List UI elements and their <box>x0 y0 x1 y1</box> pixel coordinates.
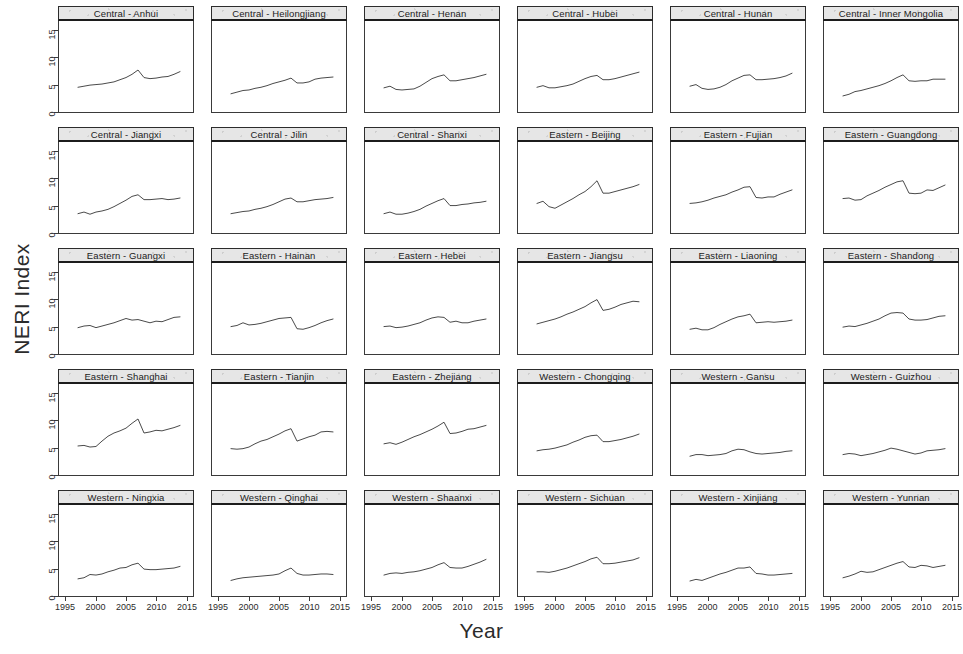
x-tick-mark <box>585 597 586 601</box>
panel-strip-header: Western - Sichuan <box>517 490 653 505</box>
panel-title: Eastern - Guangdong <box>824 128 958 141</box>
y-tick-label: 10 <box>48 299 57 309</box>
plot-area <box>823 142 959 234</box>
panel-strip-header: Eastern - Tianjin <box>211 369 347 384</box>
x-tick-label: 2000 <box>392 603 412 612</box>
plot-area <box>823 505 959 597</box>
series-line <box>78 317 180 328</box>
x-tick-label: 2000 <box>239 603 259 612</box>
x-tick-label: 2015 <box>177 603 197 612</box>
x-tick-label: 2005 <box>422 603 442 612</box>
x-tick-mark <box>708 597 709 601</box>
x-tick-label: 2000 <box>86 603 106 612</box>
panel-inner-mongolia: Central - Inner Mongolia <box>823 6 959 113</box>
plot-area <box>517 142 653 234</box>
x-tick-mark <box>187 597 188 601</box>
series-line <box>231 317 333 329</box>
series-line <box>384 422 486 444</box>
panel-tianjin: Eastern - Tianjin <box>211 369 347 476</box>
y-tick-label: 10 <box>48 420 57 430</box>
plot-area <box>211 505 347 597</box>
x-axis: 19952000200520102015 <box>58 597 194 617</box>
panel-title: Eastern - Beijing <box>518 128 652 141</box>
x-tick-mark <box>249 597 250 601</box>
panel-title: Eastern - Shanghai <box>59 370 193 383</box>
y-tick-label: 15 <box>48 514 57 524</box>
series-line <box>231 568 333 580</box>
series-line <box>537 300 639 324</box>
x-tick-label: 1995 <box>55 603 75 612</box>
plot-area <box>670 142 806 234</box>
panel-title: Western - Gansu <box>671 370 805 383</box>
x-tick-mark <box>218 597 219 601</box>
series-line <box>690 567 792 581</box>
panel-beijing: Eastern - Beijing <box>517 127 653 234</box>
series-line <box>690 449 792 456</box>
series-line <box>537 557 639 572</box>
y-tick-label: 5 <box>48 326 57 331</box>
x-tick-label: 1995 <box>208 603 228 612</box>
x-tick-label: 2010 <box>452 603 472 612</box>
x-axis: 19952000200520102015 <box>823 597 959 617</box>
x-tick-mark <box>677 597 678 601</box>
panel-strip-header: Central - Shanxi <box>364 127 500 142</box>
plot-area <box>517 21 653 113</box>
x-tick-mark <box>921 597 922 601</box>
panel-title: Eastern - Hainan <box>212 249 346 262</box>
series-line <box>384 199 486 215</box>
y-tick-label: 0 <box>48 596 57 601</box>
x-tick-mark <box>126 597 127 601</box>
x-tick-label: 2015 <box>330 603 350 612</box>
y-tick-label: 10 <box>48 541 57 551</box>
panel-title: Eastern - Hebei <box>365 249 499 262</box>
x-tick-mark <box>646 597 647 601</box>
panel-title: Central - Anhui <box>59 7 193 20</box>
panel-title: Central - Heilongjiang <box>212 7 346 20</box>
y-tick-label: 0 <box>48 475 57 480</box>
y-axis: 051015 <box>24 21 58 113</box>
series-line <box>690 187 792 204</box>
y-axis: 051015 <box>24 384 58 476</box>
series-line <box>537 181 639 209</box>
panel-title: Western - Chongqing <box>518 370 652 383</box>
panel-title: Central - Jilin <box>212 128 346 141</box>
y-tick-label: 15 <box>48 393 57 403</box>
panel-strip-header: Western - Xinjiang <box>670 490 806 505</box>
plot-area <box>670 21 806 113</box>
x-tick-mark <box>340 597 341 601</box>
plot-area <box>211 21 347 113</box>
y-axis: 051015 <box>24 142 58 234</box>
panel-jiangsu: Eastern - Jiangsu <box>517 248 653 355</box>
x-tick-label: 2010 <box>146 603 166 612</box>
panel-fujian: Eastern - Fujian <box>670 127 806 234</box>
series-line <box>384 559 486 575</box>
plot-area <box>364 505 500 597</box>
panel-title: Western - Yunnan <box>824 491 958 504</box>
x-axis: 19952000200520102015 <box>670 597 806 617</box>
panel-strip-header: Central - Inner Mongolia <box>823 6 959 21</box>
x-tick-label: 2010 <box>299 603 319 612</box>
y-tick-label: 15 <box>48 151 57 161</box>
panel-qinghai: Western - Qinghai <box>211 490 347 597</box>
panel-strip-header: Western - Shaanxi <box>364 490 500 505</box>
series-line <box>843 562 945 578</box>
panel-strip-header: Eastern - Beijing <box>517 127 653 142</box>
panel-strip-header: Eastern - Guangdong <box>823 127 959 142</box>
y-tick-label: 0 <box>48 354 57 359</box>
plot-area <box>364 263 500 355</box>
panel-strip-header: Western - Gansu <box>670 369 806 384</box>
y-tick-label: 15 <box>48 272 57 282</box>
x-tick-mark <box>156 597 157 601</box>
x-tick-mark <box>371 597 372 601</box>
panel-gansu: Western - Gansu <box>670 369 806 476</box>
x-tick-mark <box>402 597 403 601</box>
x-tick-label: 2000 <box>851 603 871 612</box>
plot-area <box>364 384 500 476</box>
x-tick-mark <box>65 597 66 601</box>
panel-strip-header: Eastern - Fujian <box>670 127 806 142</box>
series-line <box>690 73 792 89</box>
panel-zhejiang: Eastern - Zhejiang <box>364 369 500 476</box>
panel-title: Eastern - Tianjin <box>212 370 346 383</box>
plot-area <box>670 384 806 476</box>
panel-title: Eastern - Zhejiang <box>365 370 499 383</box>
